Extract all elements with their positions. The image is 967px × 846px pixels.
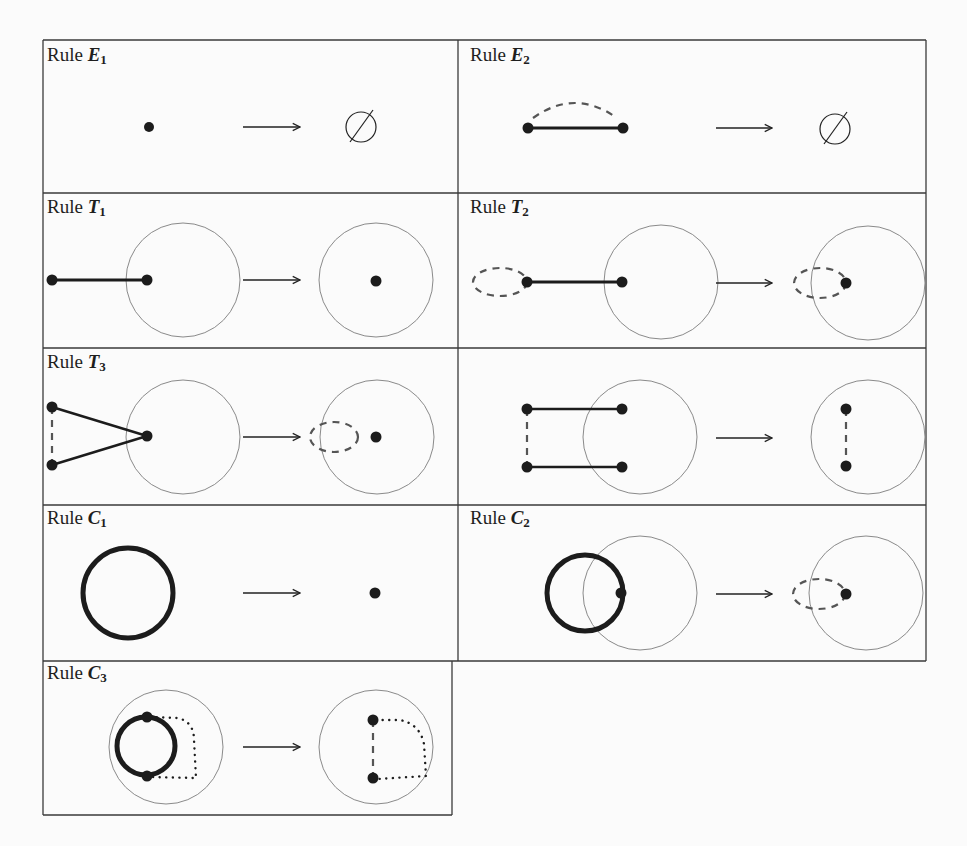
dashed-loop xyxy=(793,579,845,609)
vertex xyxy=(47,402,58,413)
panel-c3 xyxy=(109,690,433,804)
vertex xyxy=(142,771,153,782)
edge xyxy=(52,436,147,465)
vertex xyxy=(370,588,381,599)
vertex xyxy=(522,277,533,288)
panel-t1 xyxy=(47,223,434,337)
panel-e2 xyxy=(523,103,851,144)
vertex xyxy=(47,460,58,471)
vertex xyxy=(368,773,379,784)
edge xyxy=(52,407,147,436)
vertex xyxy=(617,404,628,415)
dashed-loop xyxy=(310,422,358,452)
region-circle xyxy=(583,536,697,650)
panel-t2 xyxy=(473,225,925,340)
rules-diagram xyxy=(0,0,967,846)
bold-cycle xyxy=(547,555,623,631)
vertex xyxy=(144,122,154,132)
vertex xyxy=(371,276,382,287)
panel-t3 xyxy=(47,380,435,494)
region-circle xyxy=(811,380,925,494)
vertex xyxy=(841,404,852,415)
vertex xyxy=(617,277,628,288)
panel-c2 xyxy=(547,536,923,650)
vertex xyxy=(616,588,627,599)
dashed-edge xyxy=(533,103,617,118)
vertex xyxy=(841,278,852,289)
panel-c1 xyxy=(83,548,381,638)
vertex xyxy=(522,404,533,415)
vertex xyxy=(368,715,379,726)
dotted-path xyxy=(376,720,426,779)
vertex xyxy=(142,712,153,723)
bold-cycle xyxy=(83,548,173,638)
vertex xyxy=(841,589,852,600)
vertex xyxy=(142,275,153,286)
vertex xyxy=(47,275,58,286)
vertex xyxy=(523,123,534,134)
vertex xyxy=(142,431,153,442)
dashed-loop xyxy=(473,268,527,296)
region-circle xyxy=(109,690,223,804)
empty-set-icon xyxy=(346,110,376,142)
vertex xyxy=(618,123,629,134)
panel-t3-variant xyxy=(522,380,926,494)
bold-cycle xyxy=(117,717,175,775)
empty-set-icon xyxy=(820,112,850,144)
vertex xyxy=(522,462,533,473)
table-grid xyxy=(43,40,926,815)
region-circle xyxy=(319,690,433,804)
dashed-loop xyxy=(794,268,846,298)
region-circle xyxy=(811,226,925,340)
panel-e1 xyxy=(144,110,376,142)
region-circle xyxy=(809,536,923,650)
region-circle xyxy=(583,380,697,494)
vertex xyxy=(841,461,852,472)
vertex xyxy=(617,462,628,473)
vertex xyxy=(371,432,382,443)
